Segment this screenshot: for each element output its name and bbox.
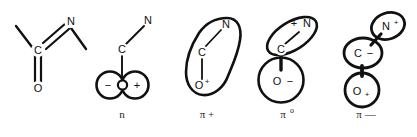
atom-label-n: N <box>144 14 152 26</box>
molecular-orbital-figure: C N O − + C N n C N O + π + <box>0 0 417 137</box>
atom-label-n: N <box>67 15 75 27</box>
atom-charge-n: + <box>291 17 297 29</box>
orbital-lobe-o <box>345 73 379 107</box>
atom-label-c: C <box>277 43 285 55</box>
lobe-sign-positive: + <box>134 79 140 91</box>
figure-canvas: C N O − + C N n C N O + π + <box>0 0 417 137</box>
atom-label-c: C <box>118 43 126 55</box>
atom-charge-o: − <box>287 75 293 87</box>
atom-label-c: C <box>34 44 42 56</box>
atom-label-c: C <box>354 47 362 59</box>
atom-charge-o: + <box>205 77 210 86</box>
caption-pi-zero: π <box>280 108 286 120</box>
atom-label-n: N <box>303 17 311 29</box>
atom-charge-n: + <box>394 18 399 27</box>
caption-pi-zero-sup: o <box>290 106 294 115</box>
node-circle <box>118 80 127 89</box>
atom-charge-c: − <box>367 47 373 59</box>
caption-pi-minus: π — <box>356 108 376 120</box>
atom-label-c: C <box>198 46 206 58</box>
atom-label-n: N <box>222 18 230 30</box>
atom-charge-o: + <box>365 90 370 99</box>
caption-n: n <box>119 108 125 120</box>
atom-label-o: O <box>273 75 282 87</box>
atom-label-o: O <box>353 85 362 97</box>
atom-label-o: O <box>34 82 43 94</box>
caption-pi-plus: π + <box>200 108 215 120</box>
atom-label-n: N <box>382 20 390 32</box>
atom-label-o: O <box>195 79 204 91</box>
orbital-lobe-c <box>344 38 382 68</box>
lobe-sign-negative: − <box>105 79 111 91</box>
